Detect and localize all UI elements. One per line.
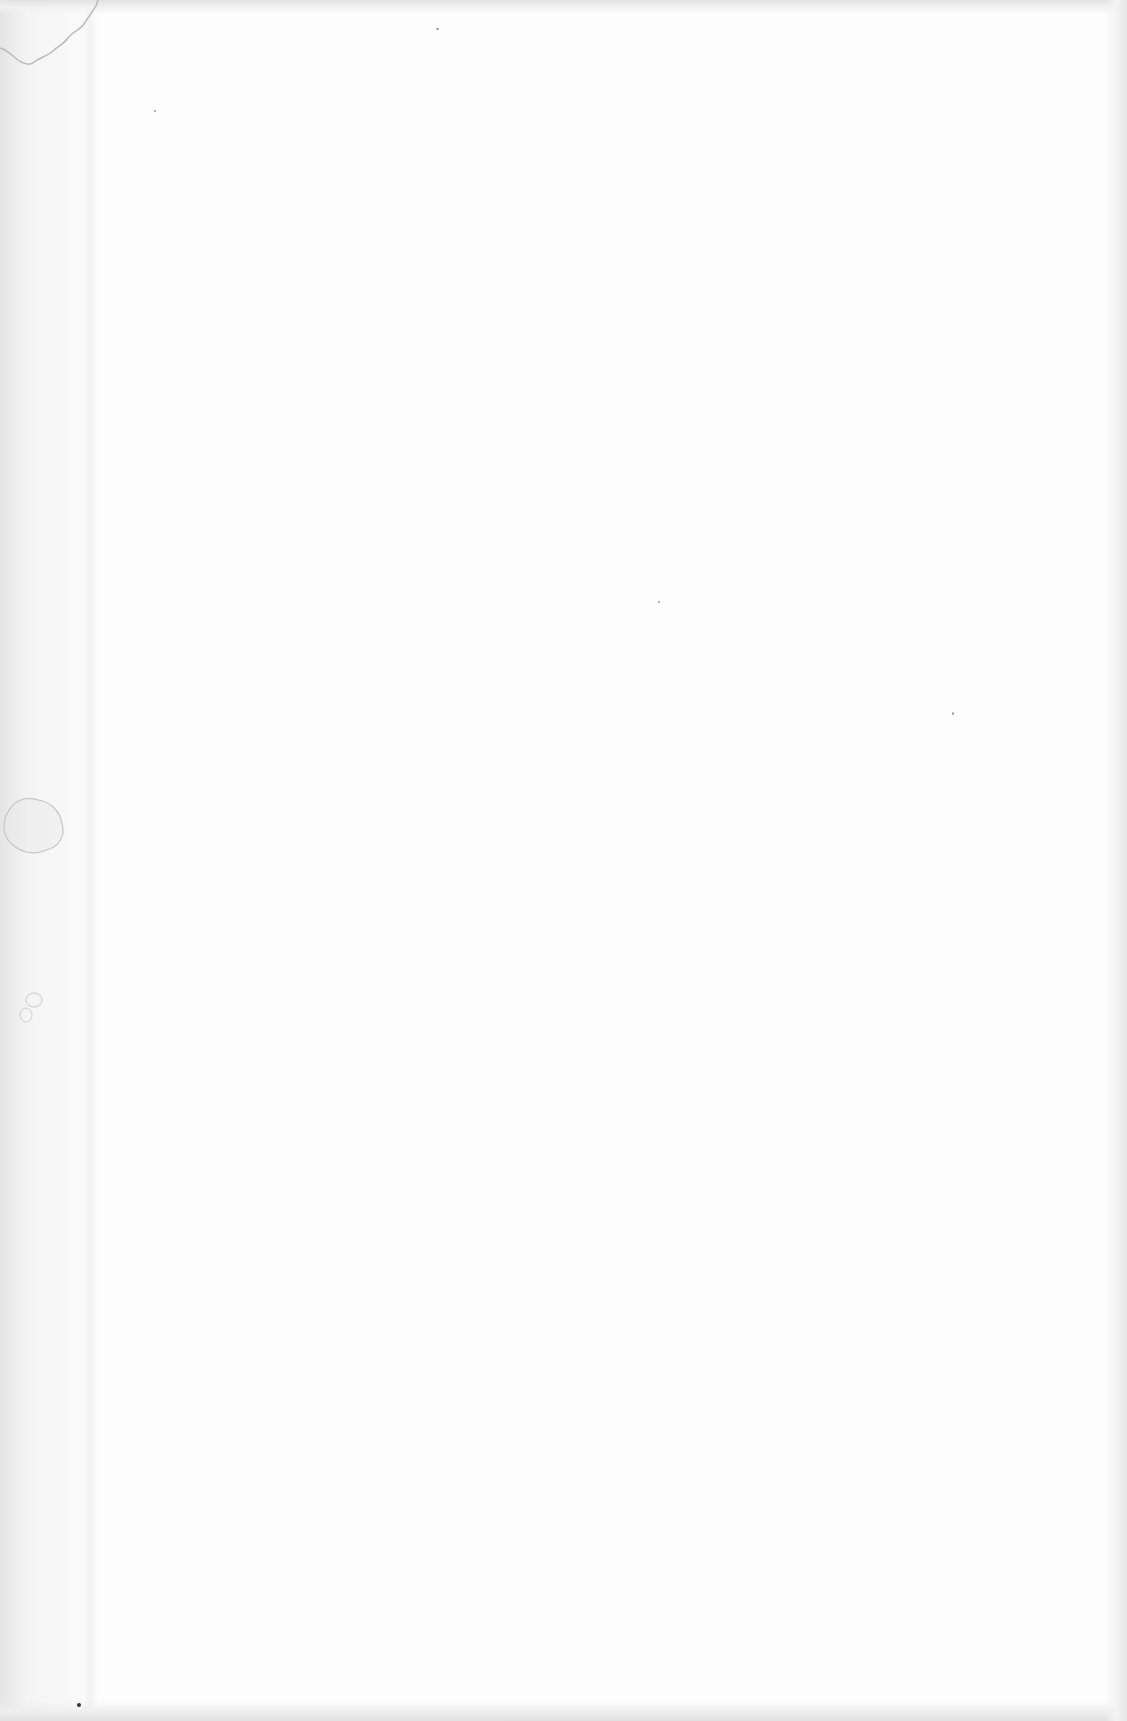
right-scan-edge [1105, 0, 1127, 1721]
binding-gutter-shadow [0, 0, 100, 1721]
speck [658, 601, 660, 603]
speck [154, 110, 156, 112]
speck [436, 28, 439, 30]
speck [952, 712, 954, 715]
speck [77, 1703, 81, 1707]
top-scan-edge [0, 0, 1127, 14]
bottom-scan-edge [0, 1701, 1127, 1721]
blank-scanned-page [0, 0, 1127, 1721]
